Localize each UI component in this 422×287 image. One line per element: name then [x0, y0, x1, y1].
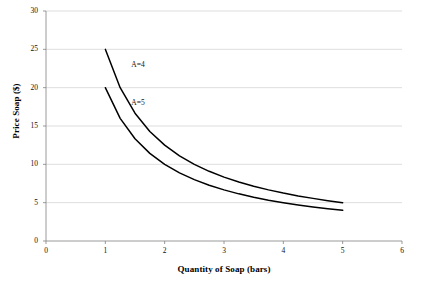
curve-label: A=5 [131, 99, 144, 107]
y-tick-label: 30 [8, 7, 38, 15]
data-series [105, 49, 342, 210]
chart-plot-area [0, 0, 422, 287]
y-axis-title: Price Soap ($) [11, 51, 21, 171]
tick-marks [43, 11, 402, 244]
x-tick-label: 2 [155, 247, 175, 255]
x-tick-label: 5 [333, 247, 353, 255]
x-tick-label: 3 [214, 247, 234, 255]
x-axis-title: Quantity of Soap (bars) [46, 264, 402, 274]
x-tick-label: 6 [392, 247, 412, 255]
x-tick-label: 4 [273, 247, 293, 255]
curve-label: A=4 [131, 61, 144, 69]
chart-container: Price Soap ($) Quantity of Soap (bars) 0… [0, 0, 422, 287]
y-tick-label: 20 [8, 84, 38, 92]
y-tick-label: 0 [8, 237, 38, 245]
x-tick-label: 1 [95, 247, 115, 255]
y-tick-label: 25 [8, 45, 38, 53]
gridlines [46, 11, 402, 203]
y-tick-label: 10 [8, 160, 38, 168]
x-tick-label: 0 [36, 247, 56, 255]
y-tick-label: 5 [8, 199, 38, 207]
y-tick-label: 15 [8, 122, 38, 130]
